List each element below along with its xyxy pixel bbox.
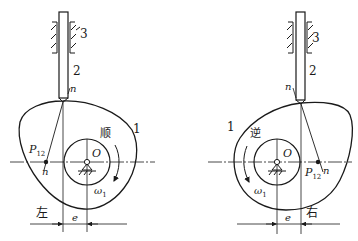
right-follower-label: 2: [309, 64, 317, 78]
right-direction-label: 逆: [250, 126, 261, 140]
right-instant-center-point: [316, 160, 320, 164]
left-common-normal: [44, 102, 63, 170]
left-follower-label: 2: [73, 64, 81, 78]
right-offset-side-label: 右: [306, 205, 318, 220]
right-angular-velocity-label: ω1: [254, 185, 267, 199]
right-instant-center-label: P12: [304, 166, 321, 181]
right-follower-rod: [296, 12, 305, 100]
left-direction-label: 顺: [100, 127, 111, 140]
right-normal-label-bottom: n: [323, 165, 329, 176]
left-guide-frame: [51, 22, 80, 53]
right-rotation-arrow: [244, 146, 249, 182]
right-pivot-label: O: [283, 147, 292, 160]
left-figure: 3 2 n 1 顺 O P12 n ω1 左 e: [10, 12, 155, 232]
left-rotation-arrow: [114, 145, 119, 181]
left-frame-label: 3: [80, 27, 88, 41]
left-instant-center-point: [44, 160, 48, 164]
left-cam-label: 1: [133, 122, 141, 136]
left-offset-side-label: 左: [36, 205, 48, 220]
right-offset-label: e: [285, 212, 291, 223]
left-instant-center-label: P12: [28, 143, 45, 158]
left-angular-velocity-label: ω1: [94, 185, 107, 199]
left-normal-label-top: n: [70, 83, 76, 94]
right-cam-profile: [234, 102, 352, 210]
right-figure: 3 2 n 1 逆 O P12 n ω1 e 右: [208, 12, 352, 234]
left-normal-label-bottom: n: [42, 166, 48, 177]
left-offset-label: e: [72, 212, 78, 223]
left-pivot-label: O: [92, 147, 101, 160]
right-normal-label-top: n: [285, 81, 291, 92]
cam-mechanism-diagram: 3 2 n 1 顺 O P12 n ω1 左 e: [0, 0, 358, 241]
left-follower-rod: [59, 12, 68, 98]
right-guide-frame: [287, 22, 313, 53]
right-cam-label: 1: [227, 120, 235, 134]
right-frame-label: 3: [312, 31, 320, 45]
